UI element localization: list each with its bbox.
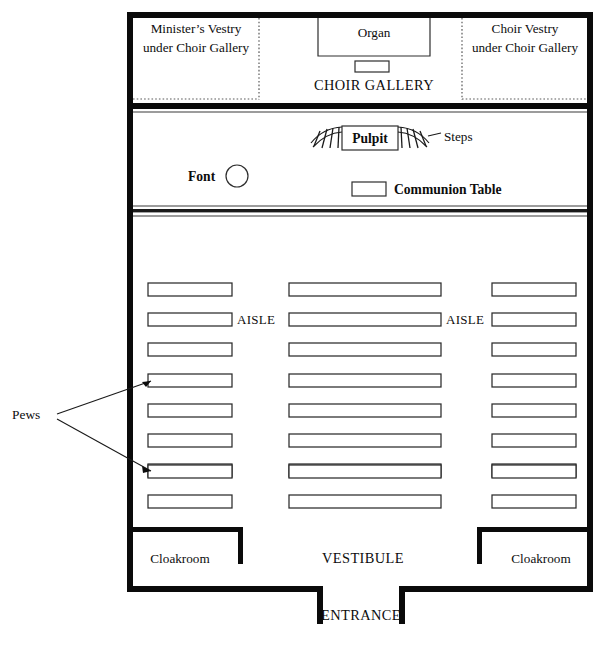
pulpit-label: Pulpit: [352, 131, 388, 146]
wall-bottom-left: [127, 586, 323, 592]
organ-console: [355, 61, 389, 72]
pews-leader-upper: [57, 381, 151, 414]
cloakroom-right-label: Cloakroom: [511, 551, 571, 566]
minister-vestry-line2: under Choir Gallery: [143, 40, 250, 55]
pew-column-center: [289, 283, 441, 508]
cloakroom-left-label: Cloakroom: [150, 551, 210, 566]
pews-label: Pews: [12, 407, 40, 422]
choir-vestry-line1: Choir Vestry: [492, 21, 559, 36]
pew-row: [492, 465, 576, 478]
cloakroom-right-top-wall: [477, 527, 587, 532]
pew-row: [148, 343, 232, 356]
organ-label: Organ: [358, 25, 391, 40]
step-line-l3: [330, 128, 333, 148]
pew-row: [289, 465, 441, 478]
steps-leader: [428, 133, 441, 136]
chancel-area: Pulpit Steps Font Communion Table: [133, 112, 587, 216]
steps-label: Steps: [444, 129, 473, 144]
church-floor-plan: Minister’s Vestry under Choir Gallery Ch…: [0, 0, 614, 646]
pew-row: [148, 283, 232, 296]
floorplan-svg: Minister’s Vestry under Choir Gallery Ch…: [0, 0, 614, 646]
nave-pews: AISLE AISLE Pews: [12, 283, 576, 508]
communion-table-icon: [352, 182, 386, 196]
pulpit-steps-right: [398, 127, 429, 148]
pew-row: [492, 313, 576, 326]
choir-gallery-label: CHOIR GALLERY: [314, 77, 434, 93]
choir-vestry-line2: under Choir Gallery: [472, 40, 579, 55]
cloakroom-right-side-wall: [477, 527, 482, 564]
pew-row: [148, 313, 232, 326]
pulpit-steps-left: [311, 127, 342, 148]
pew-row: [148, 374, 232, 387]
pew-row: [289, 313, 441, 326]
cloakroom-left-side-wall: [238, 527, 243, 564]
pew-column-left: [148, 283, 232, 508]
pew-row: [492, 404, 576, 417]
pew-row: [289, 434, 441, 447]
entrance-label: ENTRANCE: [321, 607, 401, 623]
choir-gallery-band: Minister’s Vestry under Choir Gallery Ch…: [127, 18, 593, 109]
pew-row: [148, 465, 232, 478]
pew-row: [148, 404, 232, 417]
wall-gallery-base: [127, 103, 593, 109]
chancel-divider-band: [133, 209, 587, 212]
step-line-r4: [401, 127, 402, 148]
pew-row: [148, 495, 232, 508]
pew-row: [492, 343, 576, 356]
pew-row: [492, 495, 576, 508]
step-line-r3: [407, 128, 410, 148]
vestibule-label: VESTIBULE: [322, 550, 404, 566]
cloakroom-left-top-wall: [133, 527, 243, 532]
pew-row: [289, 374, 441, 387]
wall-left: [127, 12, 133, 592]
pew-row: [148, 434, 232, 447]
pew-row: [492, 374, 576, 387]
minister-vestry-line1: Minister’s Vestry: [151, 21, 242, 36]
pew-row: [289, 343, 441, 356]
pew-row: [289, 404, 441, 417]
pew-row: [492, 283, 576, 296]
wall-bottom-right: [399, 586, 593, 592]
wall-top: [127, 12, 593, 18]
aisle-label-left: AISLE: [237, 312, 275, 327]
vestibule-area: Cloakroom Cloakroom VESTIBULE ENTRANCE: [133, 527, 587, 623]
pew-row: [289, 495, 441, 508]
pew-row: [289, 283, 441, 296]
pew-row: [492, 434, 576, 447]
pew-column-right: [492, 283, 576, 508]
aisle-label-right: AISLE: [446, 312, 484, 327]
step-line-l4: [338, 127, 339, 148]
pews-leader-lower: [57, 419, 151, 471]
font-label: Font: [188, 169, 216, 184]
wall-right: [587, 12, 593, 592]
font-basin-icon: [226, 165, 248, 187]
communion-table-label: Communion Table: [394, 182, 502, 197]
